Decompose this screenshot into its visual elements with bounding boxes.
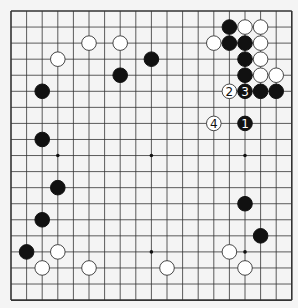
move-number: 1 [241, 117, 249, 131]
white-stone [253, 68, 268, 83]
white-stone [51, 245, 66, 260]
star-point [243, 154, 247, 158]
black-stone [238, 36, 253, 51]
star-point [56, 154, 60, 158]
white-stone [82, 261, 97, 276]
go-board: 2341 [0, 0, 298, 308]
white-stone-4: 4 [207, 116, 222, 131]
black-stone-1: 1 [238, 116, 253, 131]
white-stone [269, 68, 284, 83]
white-stone [238, 20, 253, 35]
white-stone [51, 52, 66, 67]
black-stone [51, 180, 66, 195]
move-number: 4 [210, 117, 218, 131]
white-stone-2: 2 [222, 84, 237, 99]
white-stone [82, 36, 97, 51]
move-number: 3 [241, 85, 249, 99]
black-stone [19, 245, 34, 260]
black-stone [253, 229, 268, 244]
black-stone [222, 20, 237, 35]
black-stone [253, 84, 268, 99]
white-stone [207, 36, 222, 51]
white-stone [253, 36, 268, 51]
star-point [150, 154, 154, 158]
white-stone [222, 245, 237, 260]
white-stone [160, 261, 175, 276]
black-stone [35, 212, 50, 227]
black-stone [238, 68, 253, 83]
white-stone [253, 20, 268, 35]
white-stone [238, 261, 253, 276]
star-point [243, 250, 247, 254]
black-stone [269, 84, 284, 99]
black-stone [222, 36, 237, 51]
black-stone [35, 132, 50, 147]
black-stone [238, 52, 253, 67]
white-stone [35, 261, 50, 276]
black-stone [144, 52, 159, 67]
black-stone [238, 196, 253, 211]
black-stone-3: 3 [238, 84, 253, 99]
white-stone [253, 52, 268, 67]
star-point [150, 250, 154, 254]
move-number: 2 [226, 85, 234, 99]
black-stone [35, 84, 50, 99]
white-stone [113, 36, 128, 51]
black-stone [113, 68, 128, 83]
